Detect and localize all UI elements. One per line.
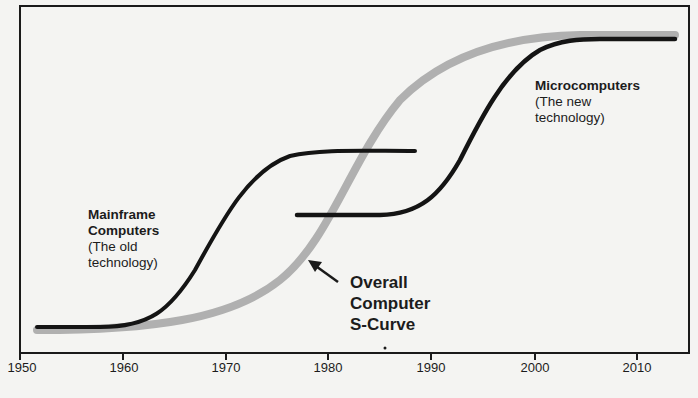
stray-dot	[384, 347, 387, 350]
overall-2: Computer	[350, 293, 430, 314]
micro-sub-1: (The new	[535, 94, 640, 110]
tick-label-1960: 1960	[110, 360, 139, 375]
overall-3: S-Curve	[350, 314, 430, 335]
mainframe-sub-2: technology)	[88, 255, 159, 271]
x-axis-ticks	[20, 353, 637, 360]
tick-label-1980: 1980	[314, 360, 343, 375]
tick-label-1990: 1990	[417, 360, 446, 375]
micro-sub-2: technology)	[535, 110, 640, 126]
tick-label-2000: 2000	[521, 360, 550, 375]
overall-1: Overall	[350, 272, 430, 293]
mainframe-title-2: Computers	[88, 223, 159, 239]
microcomputer-label: Microcomputers (The new technology)	[535, 78, 640, 126]
overall-label: Overall Computer S-Curve	[350, 272, 430, 335]
tick-label-1950: 1950	[8, 360, 37, 375]
microcomputer-curve	[297, 39, 675, 215]
micro-title: Microcomputers	[535, 78, 640, 94]
mainframe-label: Mainframe Computers (The old technology)	[88, 207, 159, 271]
mainframe-sub-1: (The old	[88, 239, 159, 255]
tick-label-1970: 1970	[212, 360, 241, 375]
arrow-icon	[308, 260, 338, 282]
mainframe-title-1: Mainframe	[88, 207, 159, 223]
tick-label-2010: 2010	[623, 360, 652, 375]
s-curve-chart	[0, 0, 698, 398]
